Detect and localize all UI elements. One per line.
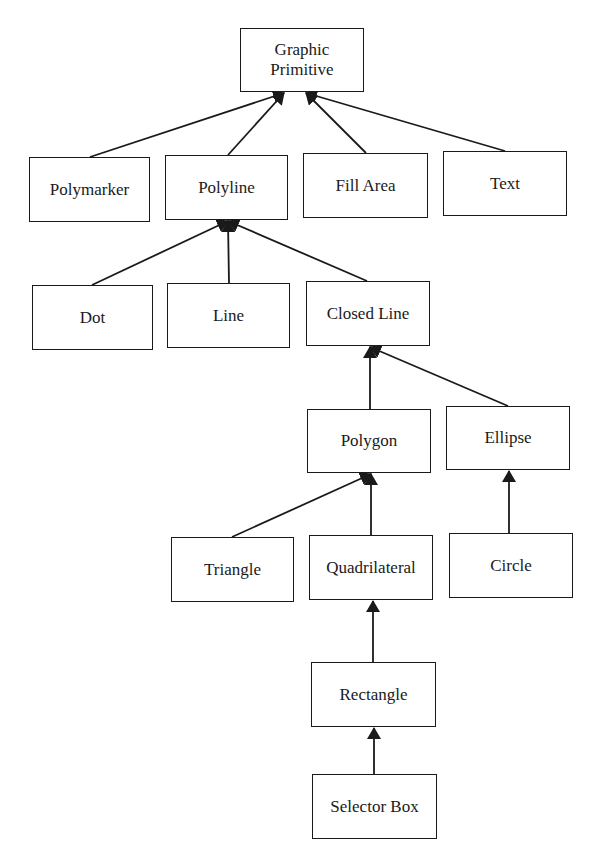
node-label: Selector Box bbox=[330, 797, 418, 817]
node-line: Line bbox=[167, 283, 290, 348]
node-label: Line bbox=[213, 306, 244, 326]
node-fill-area: Fill Area bbox=[303, 153, 428, 218]
node-label: Rectangle bbox=[340, 685, 408, 705]
class-hierarchy-diagram: Graphic Primitive Polymarker Polyline Fi… bbox=[0, 0, 599, 861]
arrow-dot-to-polyline bbox=[92, 221, 228, 285]
arrow-ellipse-to-closed_line bbox=[370, 347, 508, 406]
arrow-line-to-polyline bbox=[228, 221, 229, 283]
node-label: Ellipse bbox=[484, 428, 531, 448]
node-polymarker: Polymarker bbox=[29, 157, 150, 222]
node-label: Graphic Primitive bbox=[270, 40, 333, 80]
node-dot: Dot bbox=[32, 285, 153, 350]
node-label: Triangle bbox=[204, 560, 261, 580]
node-triangle: Triangle bbox=[171, 537, 294, 602]
node-text: Text bbox=[443, 151, 567, 216]
arrow-closed_line-to-polyline bbox=[228, 221, 367, 281]
node-label: Circle bbox=[490, 556, 532, 576]
node-selector-box: Selector Box bbox=[312, 774, 437, 839]
node-quadrilateral: Quadrilateral bbox=[309, 535, 433, 600]
node-polyline: Polyline bbox=[165, 155, 288, 220]
node-polygon: Polygon bbox=[307, 409, 431, 473]
node-rectangle: Rectangle bbox=[311, 662, 436, 727]
node-graphic-primitive: Graphic Primitive bbox=[240, 28, 364, 92]
node-label: Text bbox=[490, 174, 520, 194]
node-label: Quadrilateral bbox=[326, 558, 416, 578]
node-circle: Circle bbox=[449, 533, 573, 598]
node-label: Polyline bbox=[198, 178, 255, 198]
node-label: Closed Line bbox=[327, 304, 410, 324]
arrow-triangle-to-polygon bbox=[232, 474, 371, 537]
node-closed-line: Closed Line bbox=[306, 281, 430, 346]
node-label: Polymarker bbox=[50, 180, 129, 200]
node-ellipse: Ellipse bbox=[446, 406, 570, 470]
node-label: Fill Area bbox=[336, 176, 396, 196]
node-label: Polygon bbox=[341, 431, 398, 451]
node-label: Dot bbox=[80, 308, 106, 328]
